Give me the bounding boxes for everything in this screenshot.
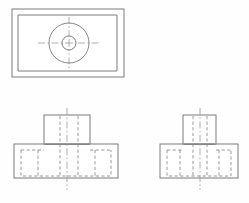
front-view-base-rectangle <box>14 144 118 178</box>
side-view-base-rectangle <box>160 144 238 178</box>
side-view <box>160 108 238 190</box>
drawing-sheet <box>0 0 249 203</box>
drawing-canvas <box>0 0 249 203</box>
side-view-upper-block <box>183 115 216 144</box>
front-view <box>14 108 118 190</box>
top-view <box>12 9 124 77</box>
